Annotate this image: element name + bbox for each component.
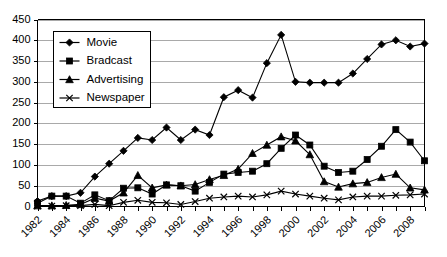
square-marker [135, 185, 141, 191]
chart-legend: MovieBradcastAdvertisingNewspaper [54, 32, 151, 108]
legend-label: Bradcast [87, 54, 133, 66]
square-marker [321, 163, 327, 169]
diamond-marker [335, 79, 342, 86]
square-marker [149, 191, 155, 197]
square-marker [264, 161, 270, 167]
square-marker [407, 139, 413, 145]
diamond-marker [407, 43, 414, 50]
diamond-marker [306, 79, 313, 86]
square-marker [307, 142, 313, 148]
legend-label: Movie [87, 36, 118, 48]
triangle-marker [392, 170, 400, 177]
square-marker [49, 193, 55, 199]
square-marker [278, 145, 284, 151]
y-tick-label: 100 [12, 158, 30, 170]
diamond-marker [235, 87, 242, 94]
line-chart: 050100150200250300350400450 198219841986… [0, 0, 447, 257]
x-tick-label: 2002 [305, 213, 331, 239]
legend-label: Advertising [87, 73, 144, 85]
x-tick-label: 1992 [161, 213, 187, 239]
x-axis-ticks [39, 207, 426, 211]
x-tick-label: 2004 [333, 213, 359, 239]
diamond-marker [263, 60, 270, 67]
chart-canvas: 050100150200250300350400450 198219841986… [0, 0, 447, 257]
triangle-marker [320, 178, 328, 185]
y-tick-label: 50 [18, 179, 30, 191]
square-marker [422, 158, 428, 164]
legend-label: Newspaper [87, 91, 145, 103]
square-marker [364, 157, 370, 163]
diamond-marker [292, 78, 299, 85]
diamond-marker [421, 40, 428, 47]
y-axis-tick-labels: 050100150200250300350400450 [12, 13, 30, 212]
y-tick-label: 350 [12, 54, 30, 66]
diamond-marker [392, 37, 399, 44]
x-tick-label: 2006 [362, 213, 388, 239]
square-marker [192, 188, 198, 194]
y-tick-label: 250 [12, 96, 30, 108]
triangle-marker [277, 133, 285, 140]
diamond-marker [206, 131, 213, 138]
x-tick-label: 1998 [247, 213, 273, 239]
triangle-marker [249, 150, 257, 157]
diamond-marker [220, 94, 227, 101]
y-tick-label: 400 [12, 33, 30, 45]
x-axis-tick-labels: 1982198419861988199019921994199619982000… [18, 213, 416, 239]
y-tick-label: 200 [12, 116, 30, 128]
diamond-marker [278, 31, 285, 38]
x-tick-label: 1994 [190, 213, 216, 239]
square-marker [379, 143, 385, 149]
y-axis-ticks [34, 21, 38, 208]
x-tick-label: 1984 [47, 213, 73, 239]
y-tick-label: 300 [12, 75, 30, 87]
diamond-marker [249, 94, 256, 101]
square-marker [350, 168, 356, 174]
diamond-marker [321, 79, 328, 86]
x-tick-label: 1996 [219, 213, 245, 239]
triangle-marker [134, 172, 142, 179]
y-tick-label: 0 [24, 200, 30, 212]
x-tick-label: 2008 [391, 213, 417, 239]
x-tick-label: 1990 [133, 213, 159, 239]
square-marker [393, 127, 399, 133]
x-tick-label: 1982 [18, 213, 44, 239]
square-marker [336, 169, 342, 175]
square-marker [250, 168, 256, 174]
square-marker [63, 193, 69, 199]
x-tick-label: 1986 [75, 213, 101, 239]
square-marker [67, 58, 73, 64]
x-tick-label: 1988 [104, 213, 130, 239]
y-tick-label: 450 [12, 13, 30, 25]
x-tick-label: 2000 [276, 213, 302, 239]
y-tick-label: 150 [12, 137, 30, 149]
diamond-marker [192, 126, 199, 133]
